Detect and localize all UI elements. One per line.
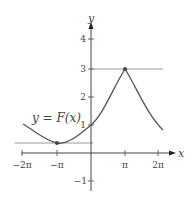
y-tick-label-neg-1: −1 (74, 176, 87, 186)
x-tick-label-2pi: 2π (152, 160, 164, 170)
function-graph-figure: y x −2π −π π 2π 4 3 2 1 −1 y = F(x) (0, 0, 193, 199)
x-axis-label: x (178, 147, 185, 160)
y-axis-label: y (87, 12, 95, 25)
maximum-point (123, 67, 127, 71)
y-tick-label-1: 1 (80, 120, 86, 130)
x-axis-arrow-icon (169, 151, 176, 156)
graph-svg: y x −2π −π π 2π 4 3 2 1 −1 y = F(x) (0, 0, 193, 199)
x-tick-label-pi: π (122, 160, 128, 170)
y-tick-label-2: 2 (80, 92, 86, 102)
x-tick-label-neg-2pi: −2π (12, 160, 31, 170)
function-label: y = F(x) (31, 111, 81, 125)
y-tick-label-3: 3 (80, 64, 86, 74)
x-tick-label-neg-pi: −π (50, 160, 64, 170)
minimum-point (55, 141, 59, 145)
y-tick-label-4: 4 (80, 34, 86, 44)
function-curve (23, 69, 163, 143)
